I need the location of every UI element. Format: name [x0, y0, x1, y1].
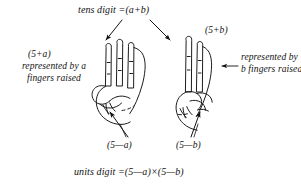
left-sub-label: (5—a) [107, 140, 132, 152]
left-caption: represented by a fingers raised [8, 61, 100, 84]
left-expression-label: (5+a) [28, 49, 51, 61]
figure-artwork [0, 0, 301, 185]
arrow-down-left [106, 20, 122, 40]
right-expression-label: (5+b) [205, 25, 228, 37]
right-caption: represented by b fingers raised [241, 52, 301, 75]
tens-digit-label: tens digit =(a+b) [78, 4, 149, 16]
right-sub-label: (5—b) [176, 140, 201, 152]
units-digit-label: units digit =(5—a)×(5—b) [74, 166, 184, 178]
leader-left [120, 124, 126, 137]
arrow-up-left [110, 112, 128, 137]
arrow-down-right [150, 20, 170, 40]
right-hand-drawing [176, 36, 212, 130]
left-hand-drawing [92, 39, 145, 124]
finger-multiplication-figure: tens digit =(a+b) (5+a) represented by a… [0, 0, 301, 185]
